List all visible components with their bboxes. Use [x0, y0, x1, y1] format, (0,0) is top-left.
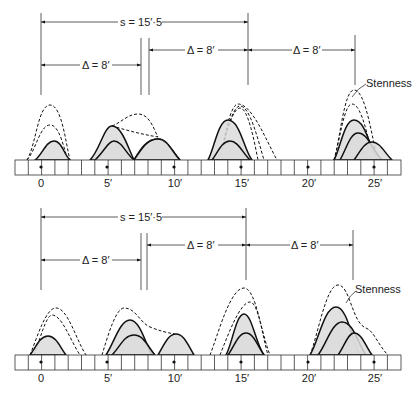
svg-text:25′: 25′	[368, 372, 382, 384]
stenness-leader-line	[352, 84, 366, 97]
svg-text:0: 0	[38, 177, 44, 189]
stenness-spacing-diagram: s = 15′·5 Δ = 8′ Δ = 8′ Δ = 8′ Stenness	[0, 0, 419, 394]
delta-right-label: Δ = 8′	[293, 44, 320, 56]
svg-text:15′: 15′	[235, 372, 249, 384]
svg-text:20′: 20′	[302, 177, 316, 189]
tick-labels: 0 5′ 10′ 15′ 20′ 25′	[38, 372, 382, 384]
curve-group-25	[310, 285, 388, 355]
svg-text:5′: 5′	[104, 177, 112, 189]
curve-group-25	[334, 90, 392, 160]
delta-middle-label: Δ = 8′	[187, 44, 214, 56]
spacing-strip	[15, 160, 401, 175]
curve-group-15	[208, 104, 277, 160]
svg-text:10′: 10′	[168, 372, 182, 384]
svg-text:10′: 10′	[168, 177, 182, 189]
curve-group-5	[90, 114, 180, 160]
curve-group-0	[27, 105, 70, 160]
svg-text:20′: 20′	[302, 372, 316, 384]
curve-group-0	[30, 308, 86, 355]
stenness-label: Stenness	[355, 283, 401, 295]
delta-left-label: Δ = 8′	[82, 254, 109, 266]
delta-middle-label: Δ = 8′	[187, 239, 214, 251]
bottom-panel: s = 15′·5 Δ = 8′ Δ = 8′ Δ = 8′ Stenness	[15, 208, 401, 384]
stenness-label: Stenness	[366, 77, 412, 89]
s-label: s = 15′·5	[120, 211, 162, 223]
svg-text:0: 0	[38, 372, 44, 384]
top-panel: s = 15′·5 Δ = 8′ Δ = 8′ Δ = 8′ Stenness	[15, 13, 412, 189]
svg-text:5′: 5′	[104, 372, 112, 384]
curve-group-5	[102, 308, 194, 355]
tick-labels: 0 5′ 10′ 15′ 20′ 25′	[38, 177, 382, 189]
s-label: s = 15′·5	[120, 16, 162, 28]
curve-group-15	[210, 288, 270, 355]
delta-left-label: Δ = 8′	[82, 59, 109, 71]
spacing-strip	[15, 355, 401, 370]
delta-right-label: Δ = 8′	[291, 239, 318, 251]
svg-text:15′: 15′	[235, 177, 249, 189]
svg-text:25′: 25′	[368, 177, 382, 189]
